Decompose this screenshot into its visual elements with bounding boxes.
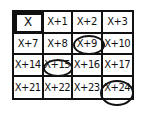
cell-x-plus-22: X+22 [44,77,74,99]
cell-x-plus-7: X+7 [14,34,44,56]
cell-x-plus-16: X+16 [73,55,103,77]
cell-x-plus-8: X+8 [44,34,74,56]
cell-x-plus-1: X+1 [44,12,74,34]
cell-x-plus-2: X+2 [73,12,103,34]
cell-x: X [14,12,44,34]
calendar-grid: X X+1 X+2 X+3 X+7 X+8 X+9 X+10 X+14 X+15… [12,10,134,100]
cell-x-plus-14: X+14 [14,55,44,77]
cell-x-plus-9: X+9 [73,34,103,56]
cell-x-plus-23: X+23 [73,77,103,99]
cell-x-plus-17: X+17 [103,55,133,77]
cell-x-plus-3: X+3 [103,12,133,34]
cell-x-plus-10: X+10 [103,34,133,56]
cell-x-plus-21: X+21 [14,77,44,99]
cell-x-plus-24: X+24 [103,77,133,99]
cell-x-plus-15: X+15 [44,55,74,77]
